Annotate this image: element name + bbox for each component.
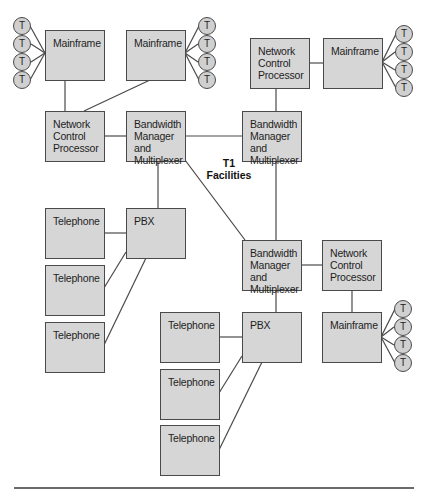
node-label: Telephone [53, 272, 100, 284]
node-label: Bandwidth Manager and Multiplexer [134, 118, 185, 166]
node-label: Network Control Processor [330, 247, 375, 283]
terminal-icon: T [198, 53, 216, 71]
node-label: PBX [250, 319, 270, 331]
node-label: Telephone [168, 319, 215, 331]
terminal-icon: T [198, 17, 216, 35]
network-control-processor-bottom: Network Control Processor [322, 240, 382, 291]
bandwidth-manager-bottom: Bandwidth Manager and Multiplexer [242, 240, 302, 291]
node-label: Telephone [53, 329, 100, 341]
node-label: Telephone [168, 376, 215, 388]
telephone-left-2: Telephone [45, 265, 105, 316]
node-label: Telephone [53, 215, 100, 227]
node-label: Mainframe [53, 37, 101, 49]
terminal-icon: T [13, 17, 31, 35]
terminal-icon: T [394, 300, 412, 318]
telephone-bottom-1: Telephone [160, 312, 220, 363]
node-label: Network Control Processor [53, 118, 98, 154]
bandwidth-manager-right: Bandwidth Manager and Multiplexer [242, 111, 302, 162]
terminal-icon: T [394, 318, 412, 336]
node-label: Mainframe [331, 45, 379, 57]
pbx-bottom: PBX [242, 312, 302, 363]
terminal-icon: T [395, 25, 413, 43]
terminal-icon: T [13, 35, 31, 53]
terminal-icon: T [395, 61, 413, 79]
node-label: Network Control Processor [258, 45, 303, 81]
node-label: Bandwidth Manager and Multiplexer [250, 247, 301, 295]
telephone-left-3: Telephone [45, 322, 105, 373]
bandwidth-manager-left: Bandwidth Manager and Multiplexer [126, 111, 186, 162]
terminal-icon: T [198, 35, 216, 53]
mainframe-bottom-right: Mainframe [322, 312, 382, 363]
telephone-bottom-2: Telephone [160, 369, 220, 420]
mainframe-top-right: Mainframe [323, 38, 383, 89]
terminal-icon: T [394, 354, 412, 372]
terminal-icon: T [13, 71, 31, 89]
telephone-left-1: Telephone [45, 208, 105, 259]
node-label: Telephone [168, 432, 215, 444]
mainframe-top-left: Mainframe [45, 30, 105, 81]
network-control-processor-top-right: Network Control Processor [250, 38, 310, 89]
terminal-icon: T [395, 79, 413, 97]
pbx-left: PBX [126, 208, 186, 259]
terminal-icon: T [394, 336, 412, 354]
telephone-bottom-3: Telephone [160, 425, 220, 476]
mainframe-top-middle: Mainframe [126, 30, 186, 81]
terminal-icon: T [395, 43, 413, 61]
terminal-icon: T [198, 71, 216, 89]
node-label: Mainframe [134, 37, 182, 49]
terminal-icon: T [13, 53, 31, 71]
network-control-processor-left: Network Control Processor [45, 111, 105, 162]
node-label: Mainframe [330, 319, 378, 331]
node-label: Bandwidth Manager and Multiplexer [250, 118, 301, 166]
t1-facilities-label: T1 Facilities [205, 157, 253, 181]
bottom-divider [14, 487, 414, 489]
node-label: PBX [134, 215, 154, 227]
